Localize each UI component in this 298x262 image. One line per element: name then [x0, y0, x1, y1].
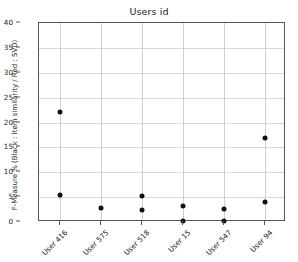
y-tick-label: 30	[4, 67, 13, 76]
x-gridline	[265, 23, 266, 220]
x-tick-label: User 15	[155, 228, 192, 262]
data-point	[263, 200, 268, 205]
y-tick-mark	[16, 146, 20, 147]
y-tick-mark	[16, 96, 20, 97]
y-tick-label: 25	[4, 92, 13, 101]
x-tick-label: User 94	[237, 228, 274, 262]
y-gridline	[39, 197, 284, 198]
y-tick-mark	[16, 196, 20, 197]
x-tick-mark	[223, 221, 224, 225]
y-tick-label: 5	[8, 192, 13, 201]
x-gridline	[60, 23, 61, 220]
x-tick-label: User 416	[31, 228, 68, 262]
x-gridline	[101, 23, 102, 220]
x-tick-mark	[141, 221, 142, 225]
x-tick-label: User 547	[196, 228, 233, 262]
data-point	[139, 208, 144, 213]
y-tick-label: 20	[4, 117, 13, 126]
data-point	[57, 110, 62, 115]
data-point	[222, 207, 227, 212]
y-gridline	[39, 98, 284, 99]
chart-figure: Users id F-Measure % (Black : Item simil…	[0, 0, 298, 262]
y-tick-label: 10	[4, 167, 13, 176]
chart-title: Users id	[0, 6, 298, 17]
x-tick-mark	[264, 221, 265, 225]
y-tick-label: 40	[4, 18, 13, 27]
y-tick-mark	[16, 71, 20, 72]
x-tick-label: User 518	[114, 228, 151, 262]
data-point	[181, 204, 186, 209]
y-gridline	[39, 123, 284, 124]
x-gridline	[224, 23, 225, 220]
x-axis: User 416User 575User 518User 15User 547U…	[0, 221, 298, 262]
x-gridline	[183, 23, 184, 220]
x-gridline	[142, 23, 143, 220]
y-tick-mark	[16, 171, 20, 172]
y-tick-label: 15	[4, 142, 13, 151]
data-point	[98, 206, 103, 211]
x-tick-mark	[100, 221, 101, 225]
x-tick-mark	[182, 221, 183, 225]
y-gridline	[39, 147, 284, 148]
y-tick-mark	[16, 46, 20, 47]
y-tick-label: 35	[4, 42, 13, 51]
data-point	[57, 193, 62, 198]
y-gridline	[39, 172, 284, 173]
x-tick-mark	[59, 221, 60, 225]
y-tick-mark	[16, 22, 20, 23]
y-tick-mark	[16, 121, 20, 122]
plot-area	[38, 22, 285, 221]
y-gridline	[39, 48, 284, 49]
data-point	[263, 135, 268, 140]
y-gridline	[39, 73, 284, 74]
x-tick-label: User 575	[73, 228, 110, 262]
data-point	[139, 194, 144, 199]
